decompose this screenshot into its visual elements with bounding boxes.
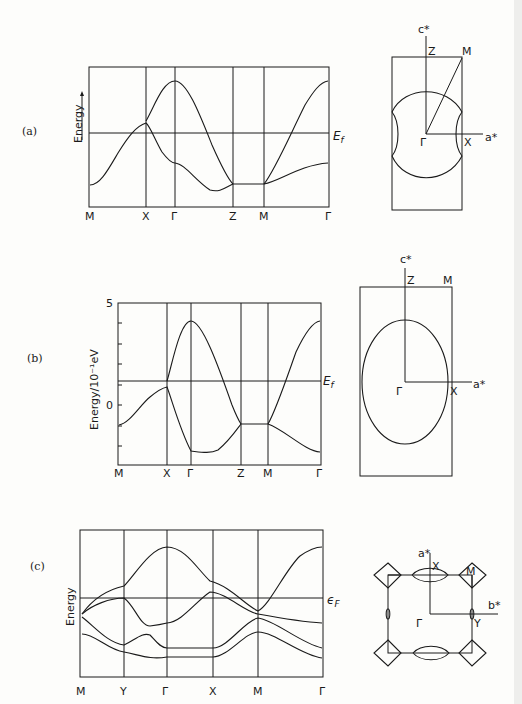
svg-text:M: M [85, 210, 95, 223]
fermi-label-c: ϵF [327, 593, 340, 609]
svg-text:X: X [142, 210, 150, 223]
band-curve [82, 617, 322, 648]
svg-text:M: M [443, 274, 453, 287]
svg-text:M: M [466, 565, 476, 578]
svg-text:Z: Z [428, 45, 436, 58]
svg-text:X: X [464, 136, 472, 149]
svg-text:M: M [76, 685, 86, 698]
band-curve [82, 632, 322, 658]
plot-frame-c [80, 530, 323, 677]
svg-text:a*: a* [418, 547, 431, 560]
band-curve [119, 387, 320, 452]
svg-text:a*: a* [473, 378, 486, 391]
svg-text:M: M [263, 467, 273, 480]
svg-text:M: M [253, 685, 263, 698]
svg-text:Γ: Γ [187, 467, 194, 480]
band-curve [167, 321, 320, 424]
svg-text:X: X [209, 685, 217, 698]
svg-text:X: X [432, 560, 440, 573]
svg-text:b*: b* [488, 599, 501, 612]
y-axis-label-a: Energy [72, 104, 85, 143]
svg-text:Γ: Γ [420, 136, 427, 149]
brillouin-zone-a: c* a* Z M Γ X [392, 23, 498, 210]
ytick-0: 0 [106, 399, 113, 412]
panel-c: (c) Energy ϵF M Y Γ X M Γ [30, 530, 501, 698]
svg-text:Y: Y [119, 685, 127, 698]
band-curve [82, 592, 322, 626]
k-labels-a: M X Γ Z M Γ [85, 210, 332, 223]
fermi-label-b: Ef [323, 374, 336, 390]
y-axis-label-c: Energy [64, 587, 77, 626]
panel-label-b: (b) [27, 352, 43, 365]
panel-b: (b) Energy/10⁻¹eV 5 0 Ef M X Γ Z M Γ [27, 253, 486, 480]
panel-a: (a) Energy Ef M X Γ Z M Γ [22, 23, 498, 223]
panel-label-c: (c) [30, 560, 45, 573]
brillouin-zone-c: a* b* X M Γ Y [374, 547, 501, 666]
panel-label-a: (a) [22, 125, 37, 138]
k-labels-b: M X Γ Z M Γ [114, 467, 323, 480]
svg-text:Y: Y [473, 617, 481, 630]
y-axis-label-b: Energy/10⁻¹eV [88, 349, 101, 430]
svg-text:c*: c* [400, 253, 412, 266]
svg-text:Z: Z [407, 274, 415, 287]
svg-text:Γ: Γ [319, 685, 326, 698]
svg-text:M: M [259, 210, 269, 223]
arrow-head-icon [80, 91, 84, 96]
plot-frame-b [118, 303, 321, 465]
svg-text:Z: Z [229, 210, 237, 223]
k-labels-c: M Y Γ X M Γ [76, 685, 326, 698]
svg-text:X: X [450, 385, 458, 398]
yticks-b [118, 323, 122, 446]
svg-text:Z: Z [237, 467, 245, 480]
svg-text:Γ: Γ [162, 685, 169, 698]
svg-text:Γ: Γ [396, 385, 403, 398]
svg-text:Γ: Γ [316, 467, 323, 480]
svg-text:Γ: Γ [416, 617, 423, 630]
svg-text:a*: a* [485, 131, 498, 144]
figure-canvas: (a) Energy Ef M X Γ Z M Γ [0, 0, 522, 704]
band-curve [82, 547, 322, 614]
fermi-label-a: Ef [333, 129, 346, 145]
svg-text:X: X [163, 467, 171, 480]
svg-text:Γ: Γ [325, 210, 332, 223]
brillouin-zone-b: c* a* Z M Γ X [360, 253, 486, 476]
ytick-5: 5 [106, 297, 113, 310]
svg-text:M: M [462, 45, 472, 58]
svg-text:c*: c* [418, 23, 430, 36]
svg-text:M: M [114, 467, 124, 480]
svg-text:Γ: Γ [171, 210, 178, 223]
